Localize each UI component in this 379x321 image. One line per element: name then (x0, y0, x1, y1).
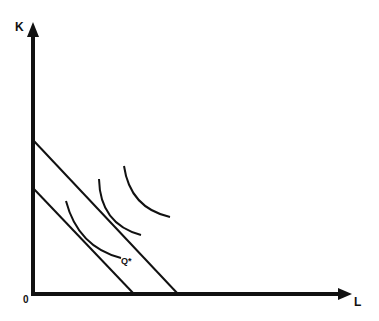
k-axis-arrow-icon (27, 22, 39, 37)
isoquant-diagram (0, 0, 379, 321)
upper-isocost-line (33, 140, 178, 294)
isoquant-outer (124, 166, 170, 217)
isoquant-q-star (66, 201, 121, 258)
l-axis-label: L (354, 295, 361, 309)
lower-isocost-line (33, 188, 134, 294)
isoquant-middle (99, 179, 141, 235)
origin-label: 0 (23, 294, 29, 305)
isoquant-label: Q* (121, 256, 132, 266)
l-axis-arrow-icon (338, 288, 352, 300)
k-axis-label: K (15, 20, 24, 34)
